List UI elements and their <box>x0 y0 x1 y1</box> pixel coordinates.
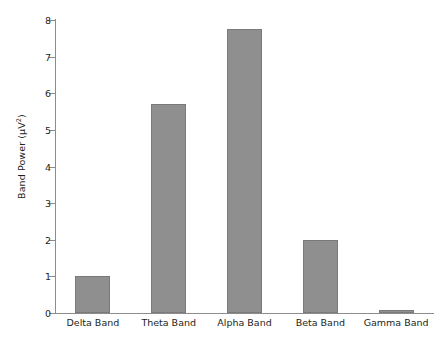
y-axis-tick-label: 1 <box>13 271 55 282</box>
bar <box>151 104 186 313</box>
bar-slot <box>151 20 186 313</box>
bar-slot <box>227 20 262 313</box>
y-axis-tick-label: 7 <box>13 51 55 62</box>
bar <box>75 276 110 313</box>
y-axis-tick-label: 6 <box>13 88 55 99</box>
y-axis-tick-label: 4 <box>13 161 55 172</box>
x-axis-tick-label: Theta Band <box>141 317 196 328</box>
bar-slot <box>379 20 414 313</box>
bar-slot <box>303 20 338 313</box>
y-axis-tick-label: 3 <box>13 198 55 209</box>
x-axis-line <box>55 313 434 314</box>
bar <box>227 29 262 313</box>
x-axis-labels: Delta BandTheta BandAlpha BandBeta BandG… <box>55 317 434 337</box>
bar-series <box>55 20 434 313</box>
y-axis-tick-label: 0 <box>13 308 55 319</box>
x-axis-tick-label: Delta Band <box>67 317 120 328</box>
x-axis-tick-label: Gamma Band <box>364 317 429 328</box>
bar <box>379 310 414 313</box>
bar-slot <box>75 20 110 313</box>
bar-chart-figure: Band Power (μV2) 012345678 Delta BandThe… <box>0 0 438 348</box>
bar <box>303 240 338 313</box>
y-axis-tick-label: 8 <box>13 15 55 26</box>
y-axis-tick-label: 5 <box>13 124 55 135</box>
x-axis-tick-label: Beta Band <box>296 317 345 328</box>
y-axis-tick-label: 2 <box>13 234 55 245</box>
y-axis-ticks: 012345678 <box>0 0 55 348</box>
x-axis-tick-label: Alpha Band <box>217 317 271 328</box>
